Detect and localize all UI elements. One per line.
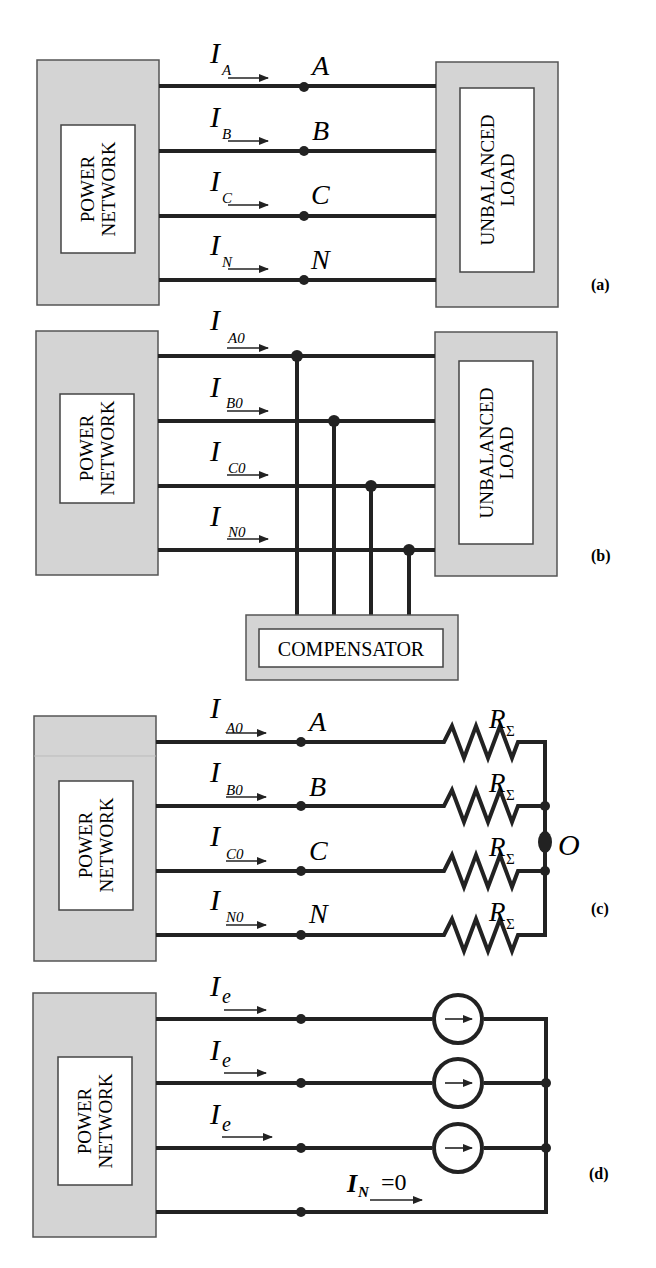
svg-text:e: e: [222, 1113, 231, 1135]
current-label-in0: I N0 N: [209, 883, 329, 929]
panel-b: POWER NETWORK UNBALANCED LOAD COMPENSATO…: [36, 303, 611, 680]
svg-text:R: R: [488, 768, 506, 798]
power-network-line1: POWER: [77, 155, 98, 222]
svg-text:A: A: [221, 62, 232, 78]
current-source-icon: [434, 995, 482, 1043]
unbalanced-load-line2: LOAD: [496, 427, 517, 480]
diagram-canvas: POWER NETWORK UNBALANCED LOAD I A A I B …: [0, 0, 656, 1268]
panel-c: POWER NETWORK O R Σ R Σ R Σ R: [34, 691, 609, 961]
svg-text:e: e: [222, 1049, 231, 1071]
svg-text:C0: C0: [228, 460, 246, 476]
current-label-ib0: I B0 B: [209, 755, 326, 802]
node-b: B: [309, 771, 326, 802]
svg-text:I: I: [209, 755, 222, 788]
svg-text:I: I: [209, 303, 222, 336]
resistor-label: R Σ: [488, 897, 515, 932]
current-label-ic0: I C0 C: [209, 819, 328, 866]
svg-text:R: R: [488, 832, 506, 862]
svg-text:I: I: [209, 434, 222, 467]
current-source-icon: [434, 1124, 482, 1172]
svg-text:I: I: [209, 883, 222, 916]
node-a: A: [307, 706, 327, 737]
current-label-ia0: I A0 A: [209, 691, 327, 737]
current-label-ie: I e: [209, 1033, 266, 1073]
svg-text:Σ: Σ: [506, 916, 515, 932]
node-c: C: [309, 835, 328, 866]
panel-label-b: (b): [591, 547, 611, 565]
svg-text:I: I: [209, 691, 222, 724]
current-source-icon: [434, 1059, 482, 1107]
svg-text:I: I: [209, 499, 222, 532]
power-network-line2: NETWORK: [96, 797, 117, 892]
node-b: B: [312, 115, 329, 146]
power-network-line2: NETWORK: [95, 1073, 116, 1168]
neutral-point-o: [538, 831, 552, 853]
node-n: N: [310, 244, 331, 275]
svg-text:B0: B0: [226, 782, 243, 798]
neutral-point-label: O: [558, 828, 580, 861]
resistor-label: R Σ: [488, 768, 515, 803]
power-network-line2: NETWORK: [98, 141, 119, 236]
svg-text:I: I: [209, 969, 222, 1002]
svg-text:Σ: Σ: [506, 723, 515, 739]
svg-text:B0: B0: [226, 395, 243, 411]
neutral-current-label: I N =0: [346, 1169, 422, 1200]
svg-text:Σ: Σ: [506, 851, 515, 867]
svg-text:e: e: [222, 985, 231, 1007]
power-network-line2: NETWORK: [97, 400, 118, 495]
current-label-ic: I C C: [209, 164, 330, 210]
current-label-ie: I e: [209, 1097, 272, 1137]
resistor-label: R Σ: [488, 832, 515, 867]
node-c: C: [311, 179, 330, 210]
svg-text:N0: N0: [225, 909, 244, 925]
svg-text:C0: C0: [226, 846, 244, 862]
unbalanced-load-line1: UNBALANCED: [476, 388, 497, 519]
current-label-ia: I A A: [209, 36, 330, 81]
svg-text:I: I: [209, 819, 222, 852]
panel-label-c: (c): [591, 900, 609, 918]
current-label-ib0: I B0: [209, 370, 268, 411]
svg-text:=0: =0: [381, 1169, 407, 1195]
resistor-label: R Σ: [488, 704, 515, 739]
panel-label-d: (d): [589, 1165, 609, 1183]
svg-text:I: I: [209, 1033, 222, 1066]
compensator-label: COMPENSATOR: [278, 638, 425, 660]
panel-label-a: (a): [591, 276, 610, 294]
current-label-ia0: I A0: [209, 303, 268, 348]
power-network-line1: POWER: [76, 414, 97, 481]
svg-text:N: N: [357, 1184, 370, 1200]
svg-text:B: B: [222, 126, 231, 142]
svg-text:I: I: [346, 1169, 358, 1198]
svg-text:I: I: [209, 1097, 222, 1130]
svg-text:Σ: Σ: [506, 787, 515, 803]
panel-a: POWER NETWORK UNBALANCED LOAD I A A I B …: [37, 36, 610, 307]
current-label-in: I N N: [209, 228, 331, 275]
current-label-ic0: I C0: [209, 434, 268, 476]
svg-text:I: I: [209, 228, 222, 261]
svg-text:R: R: [488, 897, 506, 927]
svg-text:C: C: [222, 190, 233, 206]
panel-d: POWER NETWORK I e I: [33, 969, 609, 1237]
svg-text:N: N: [221, 254, 233, 270]
unbalanced-load-line2: LOAD: [497, 154, 518, 207]
svg-text:A0: A0: [227, 330, 245, 346]
node-a: A: [310, 50, 330, 81]
svg-text:I: I: [209, 36, 222, 69]
svg-text:R: R: [488, 704, 506, 734]
svg-text:N0: N0: [227, 524, 246, 540]
current-label-ie: I e: [209, 969, 266, 1010]
svg-text:I: I: [209, 370, 222, 403]
power-network-line1: POWER: [75, 811, 96, 878]
current-label-ib: I B B: [209, 100, 329, 146]
power-network-line1: POWER: [74, 1087, 95, 1154]
unbalanced-load-line1: UNBALANCED: [477, 115, 498, 246]
node-n: N: [308, 898, 329, 929]
current-label-in0: I N0: [209, 499, 268, 540]
svg-text:I: I: [209, 100, 222, 133]
svg-text:I: I: [209, 164, 222, 197]
